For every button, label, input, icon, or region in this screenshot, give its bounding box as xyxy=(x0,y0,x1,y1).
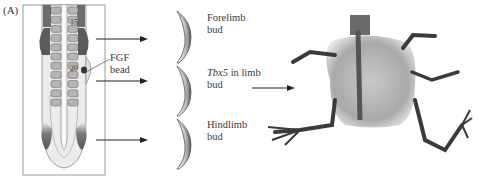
somite xyxy=(51,44,61,51)
hindlimb-bud-shape xyxy=(177,119,191,169)
somite xyxy=(51,25,61,32)
hindlimb-bud-line1: Hindlimb xyxy=(207,119,247,130)
right-hindlimb xyxy=(415,100,462,150)
somite xyxy=(51,71,61,78)
forelimb-bud-line2: bud xyxy=(207,24,223,35)
somite xyxy=(51,7,61,14)
ectopic-limb xyxy=(412,72,458,80)
somite xyxy=(68,7,78,14)
chick-spine xyxy=(358,30,360,120)
hindlimb-bud-line2: bud xyxy=(207,131,223,142)
somite xyxy=(51,35,61,42)
somite xyxy=(51,81,61,88)
forelimb-bud-line1: Forelimb xyxy=(207,12,246,23)
somite xyxy=(68,81,78,88)
hindlimb-bud-label: Hindlimb bud xyxy=(207,119,247,143)
forelimb-bud-label: Forelimb bud xyxy=(207,12,246,36)
fgf-bead xyxy=(81,67,87,74)
hindlimb-arrowhead xyxy=(140,137,148,143)
forelimb-bud-shape xyxy=(177,11,191,63)
fgf-label-line2: bead xyxy=(110,64,130,76)
somite xyxy=(68,53,78,60)
limb-buds xyxy=(177,11,191,169)
fgf-label-line1: FGF xyxy=(110,52,129,64)
tbx5-arrowhead xyxy=(140,78,148,84)
right-toes xyxy=(462,110,472,138)
somite xyxy=(51,53,61,60)
neural-tube xyxy=(61,5,67,150)
left-stripe xyxy=(43,5,51,27)
chick-embryo-photo xyxy=(268,15,472,150)
somite xyxy=(51,62,61,69)
tbx5-bud-label: Tbx5 in limb bud xyxy=(207,67,261,91)
tbx5-bud-shape xyxy=(177,66,191,116)
somite xyxy=(68,90,78,97)
result-arrowhead xyxy=(287,85,295,91)
left-hindlimb xyxy=(275,100,335,132)
somite xyxy=(51,16,61,23)
somite-label-15: 15 xyxy=(70,17,78,29)
somite xyxy=(51,99,61,106)
embryo-diagram xyxy=(23,5,105,175)
tbx5-bud-line1: in limb xyxy=(228,67,261,78)
somite xyxy=(68,99,78,106)
tbx5-gene-name: Tbx5 xyxy=(207,67,228,78)
forelimb-arrowhead xyxy=(140,36,148,42)
somite xyxy=(51,90,61,97)
tbx5-bud-line2: bud xyxy=(207,79,223,90)
somite xyxy=(68,35,78,42)
somite-label-20: 20 xyxy=(70,63,78,75)
somite xyxy=(68,44,78,51)
